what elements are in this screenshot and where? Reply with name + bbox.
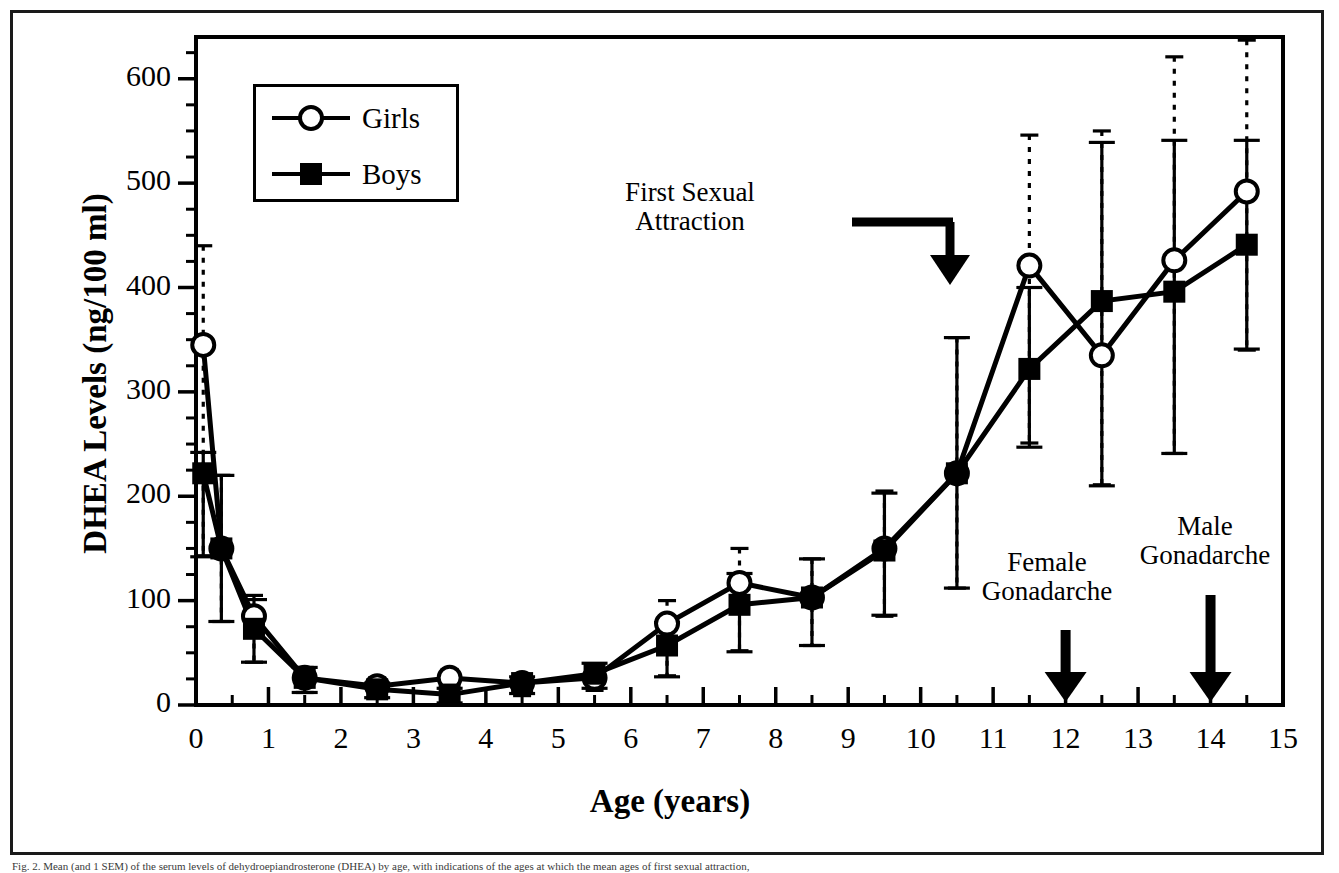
- x-tick-label: 8: [746, 721, 806, 755]
- x-tick-label: 9: [818, 721, 878, 755]
- x-tick-label: 4: [456, 721, 516, 755]
- annotation-line-1: First Sexual: [560, 178, 820, 207]
- x-tick-label: 3: [383, 721, 443, 755]
- x-tick-label: 12: [1036, 721, 1096, 755]
- legend-item-boys: Boys: [256, 149, 462, 199]
- x-tick-label: 13: [1108, 721, 1168, 755]
- y-tick-label: 100: [86, 581, 171, 615]
- x-axis-title: Age (years): [500, 783, 840, 820]
- legend: Girls Boys: [253, 84, 459, 202]
- legend-item-girls: Girls: [256, 93, 462, 143]
- y-tick-label: 400: [86, 268, 171, 302]
- x-tick-label: 2: [311, 721, 371, 755]
- x-tick-label: 14: [1181, 721, 1241, 755]
- x-tick-label: 15: [1253, 721, 1313, 755]
- y-tick-label: 200: [86, 476, 171, 510]
- figure-root: DHEA Levels (ng/100 ml) Age (years) 0123…: [0, 0, 1339, 873]
- legend-label-boys: Boys: [362, 158, 422, 191]
- x-tick-label: 11: [963, 721, 1023, 755]
- x-tick-label: 1: [238, 721, 298, 755]
- x-tick-label: 6: [601, 721, 661, 755]
- y-tick-label: 300: [86, 372, 171, 406]
- annotation-line-1: Male: [1110, 512, 1300, 541]
- legend-marker-open-circle: [268, 98, 354, 138]
- annotation-male-gonadarche: Male Gonadarche: [1110, 512, 1300, 570]
- figure-caption: Fig. 2. Mean (and 1 SEM) of the serum le…: [12, 860, 1332, 872]
- x-tick-label: 0: [166, 721, 226, 755]
- annotation-line-2: Gonadarche: [952, 577, 1142, 606]
- legend-label-girls: Girls: [362, 102, 420, 135]
- y-tick-label: 600: [86, 59, 171, 93]
- y-tick-label: 500: [86, 163, 171, 197]
- x-tick-label: 10: [891, 721, 951, 755]
- x-tick-label: 7: [673, 721, 733, 755]
- x-tick-label: 5: [528, 721, 588, 755]
- y-tick-label: 0: [86, 685, 171, 719]
- annotation-line-2: Attraction: [560, 207, 820, 236]
- legend-marker-filled-square: [268, 154, 354, 194]
- annotation-first-sexual-attraction: First Sexual Attraction: [560, 178, 820, 236]
- annotation-line-2: Gonadarche: [1110, 541, 1300, 570]
